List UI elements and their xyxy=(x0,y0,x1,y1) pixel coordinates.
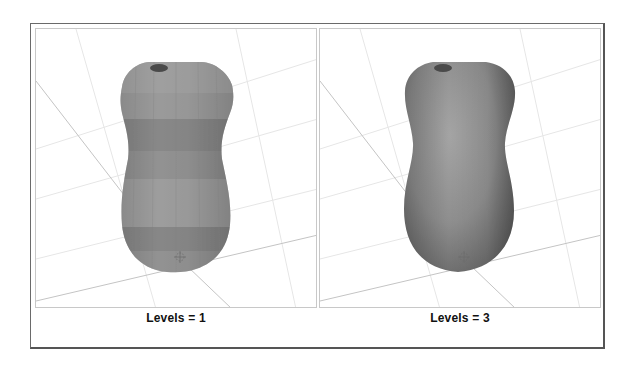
caption-levels-1: Levels = 1 xyxy=(35,311,317,325)
figure-frame: Levels = 1 xyxy=(30,23,605,349)
caption-levels-3: Levels = 3 xyxy=(319,311,601,325)
viewport-levels-1 xyxy=(35,28,317,308)
viewport-scene-left xyxy=(36,29,317,308)
vase-faceted xyxy=(116,59,236,279)
vase-opening xyxy=(150,64,168,72)
panel-levels-3: Levels = 3 xyxy=(319,28,601,330)
vase-opening xyxy=(434,64,452,72)
vase-smooth xyxy=(404,62,515,272)
panel-levels-1: Levels = 1 xyxy=(35,28,317,330)
viewport-levels-3 xyxy=(319,28,601,308)
viewport-scene-right xyxy=(320,29,601,308)
